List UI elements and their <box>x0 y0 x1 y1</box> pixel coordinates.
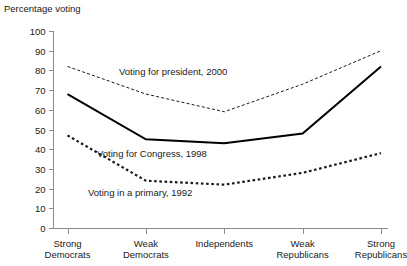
series-label-0: Voting for president, 2000 <box>119 66 227 77</box>
series-line-0 <box>68 51 382 112</box>
series-line-1 <box>68 66 382 143</box>
series-label-1: Voting for Congress, 1998 <box>97 148 207 159</box>
series-label-2: Voting in a primary, 1992 <box>88 187 192 198</box>
